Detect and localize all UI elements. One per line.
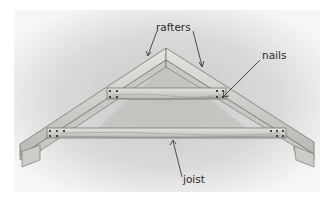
label-nails: nails	[262, 50, 286, 61]
collar-tie	[107, 88, 226, 99]
label-joist: joist	[183, 174, 205, 185]
truss-diagram: rafters nails joist	[0, 0, 330, 199]
label-rafters: rafters	[156, 22, 191, 33]
